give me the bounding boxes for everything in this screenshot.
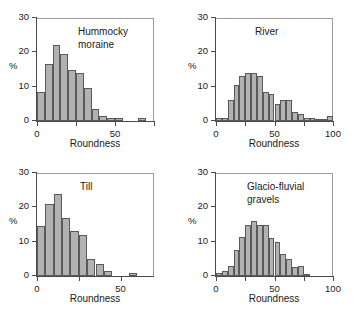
- histogram-bar: [104, 271, 112, 276]
- x-tick: [333, 276, 334, 281]
- histogram-bar: [79, 235, 87, 276]
- y-tick-label: 20: [197, 44, 208, 57]
- y-tick-label: 10: [197, 79, 208, 92]
- y-tick-label: 0: [203, 113, 208, 126]
- x-tick: [115, 121, 116, 126]
- y-axis-label: %: [188, 215, 196, 226]
- y-tick-label: 10: [18, 234, 29, 247]
- y-tick: 30: [32, 17, 37, 18]
- histogram-figure: % 0102030050 Hummocky moraine Roundness …: [0, 0, 358, 310]
- histogram-bar: [37, 226, 45, 276]
- y-tick: 30: [32, 172, 37, 173]
- y-tick-label: 30: [18, 165, 29, 178]
- y-tick: 10: [211, 241, 216, 242]
- histogram-bar: [60, 54, 68, 121]
- panel-title: Till: [80, 181, 92, 194]
- x-tick: [275, 276, 276, 281]
- y-axis-label: %: [9, 60, 17, 71]
- histogram-bar: [37, 92, 45, 121]
- histogram-bar: [53, 45, 61, 121]
- panel-till: % 0102030050 Till Roundness: [0, 155, 179, 310]
- x-axis-label: Roundness: [215, 138, 333, 149]
- histogram-bar: [62, 218, 70, 276]
- panel-title: Glacio-fluvial gravels: [247, 181, 304, 206]
- y-tick: 20: [211, 51, 216, 52]
- y-tick-label: 10: [197, 234, 208, 247]
- x-tick: [304, 121, 305, 126]
- y-tick: 20: [211, 206, 216, 207]
- x-axis-label: Roundness: [36, 293, 154, 304]
- y-tick-label: 20: [18, 199, 29, 212]
- y-axis-label: %: [188, 60, 196, 71]
- histogram-bar: [138, 118, 146, 121]
- histogram-bar: [129, 273, 137, 276]
- histogram-bar: [115, 118, 123, 121]
- y-tick: 10: [211, 86, 216, 87]
- histogram-bar: [96, 264, 104, 276]
- x-tick: [37, 121, 38, 126]
- x-tick: [37, 276, 38, 281]
- histogram-bar: [54, 194, 62, 276]
- histogram-bar: [68, 70, 76, 122]
- x-tick: [79, 276, 80, 281]
- x-axis-label: Roundness: [215, 293, 333, 304]
- y-tick: 20: [32, 51, 37, 52]
- x-tick: [304, 276, 305, 281]
- y-tick-label: 30: [18, 10, 29, 23]
- y-tick: 30: [211, 17, 216, 18]
- bar-series: [37, 173, 154, 276]
- histogram-bar: [107, 118, 115, 121]
- x-axis-label: Roundness: [36, 138, 154, 149]
- panel-title: River: [255, 26, 278, 39]
- x-tick: [76, 121, 77, 126]
- y-axis-label: %: [9, 215, 17, 226]
- y-tick-label: 0: [203, 268, 208, 281]
- x-tick: [245, 276, 246, 281]
- histogram-bar: [99, 116, 107, 121]
- x-tick: [275, 121, 276, 126]
- panel-river: % 0102030050100 River Roundness: [179, 0, 358, 155]
- histogram-bar: [76, 73, 84, 121]
- histogram-bar: [45, 64, 53, 121]
- x-tick: [216, 121, 217, 126]
- plot-area: 0102030050: [36, 173, 154, 277]
- y-tick-label: 10: [18, 79, 29, 92]
- y-tick-label: 20: [18, 44, 29, 57]
- panel-hummocky-moraine: % 0102030050 Hummocky moraine Roundness: [0, 0, 179, 155]
- x-tick: [216, 276, 217, 281]
- panel-title: Hummocky moraine: [78, 26, 128, 51]
- y-tick: 10: [32, 86, 37, 87]
- y-tick-label: 30: [197, 10, 208, 23]
- panel-glacio-fluvial-gravels: % 0102030050100 Glacio-fluvial gravels R…: [179, 155, 358, 310]
- y-tick: 10: [32, 241, 37, 242]
- histogram-bar: [87, 259, 95, 276]
- x-tick: [333, 121, 334, 126]
- y-tick-label: 0: [24, 113, 29, 126]
- y-tick-label: 30: [197, 165, 208, 178]
- y-tick-label: 0: [24, 268, 29, 281]
- x-tick: [245, 121, 246, 126]
- histogram-bar: [70, 231, 78, 276]
- y-tick-label: 20: [197, 199, 208, 212]
- histogram-bar: [84, 88, 92, 121]
- histogram-bar: [92, 109, 100, 121]
- x-tick: [154, 121, 155, 126]
- histogram-bar: [45, 204, 53, 276]
- y-tick: 30: [211, 172, 216, 173]
- y-tick: 20: [32, 206, 37, 207]
- x-tick: [121, 276, 122, 281]
